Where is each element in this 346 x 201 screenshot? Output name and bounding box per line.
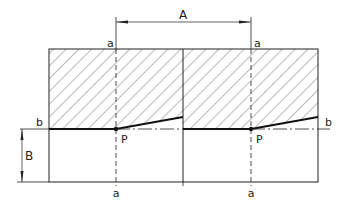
section-a-bottom-right-label: a (248, 187, 255, 200)
section-a-top-right-label: a (254, 37, 261, 50)
dim-A-arrow-left (116, 21, 128, 24)
dim-B-arrow-bottom (21, 171, 24, 182)
section-a-bottom-left-label: a (113, 187, 120, 200)
line-b-right-label: b (325, 116, 332, 129)
dim-A-label: A (179, 8, 188, 22)
technical-drawing: A B P P a a a a b b (0, 0, 346, 201)
point-P-left-marker (114, 127, 118, 131)
point-P-left-label: P (121, 133, 128, 146)
section-a-top-left-label: a (107, 37, 114, 50)
dim-B-arrow-top (21, 129, 24, 140)
point-P-right-marker (249, 127, 253, 131)
dim-A-arrow-right (239, 21, 251, 24)
point-P-right-label: P (256, 133, 263, 146)
dim-B-label: B (25, 149, 33, 163)
line-b-left-label: b (36, 116, 43, 129)
